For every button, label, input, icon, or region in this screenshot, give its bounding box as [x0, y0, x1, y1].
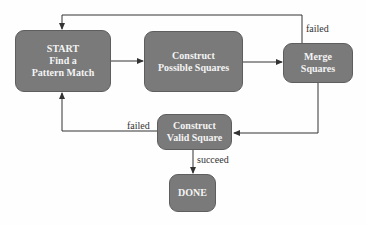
label-merge-failed: failed — [306, 23, 329, 34]
label-valid-succeed: succeed — [197, 154, 229, 165]
label-valid-failed: failed — [127, 120, 150, 131]
node-construct-valid-square: Construct Valid Square — [157, 114, 232, 150]
edge-merge-to-valid — [234, 83, 318, 133]
flowchart-canvas: START Find a Pattern Match Construct Pos… — [0, 0, 367, 225]
node-done: DONE — [169, 174, 216, 212]
node-merge-squares: Merge Squares — [283, 43, 353, 83]
node-start: START Find a Pattern Match — [15, 30, 111, 92]
node-construct-possible-squares: Construct Possible Squares — [144, 31, 243, 92]
